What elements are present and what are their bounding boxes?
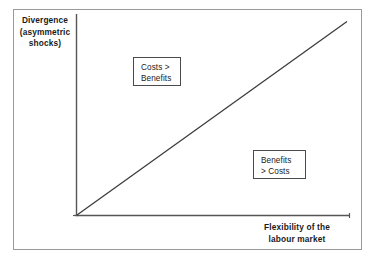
x-axis-label: Flexibility of the labour market — [243, 222, 351, 245]
region-label-benefits-greater-than-costs: Benefits > Costs — [253, 150, 306, 179]
diagonal-threshold-line — [77, 22, 347, 216]
diagram-canvas: Divergence (asymmetric shocks) Flexibili… — [0, 0, 375, 264]
region-label-costs-greater-than-benefits: Costs > Benefits — [133, 57, 181, 86]
y-axis-label: Divergence (asymmetric shocks) — [16, 15, 74, 50]
